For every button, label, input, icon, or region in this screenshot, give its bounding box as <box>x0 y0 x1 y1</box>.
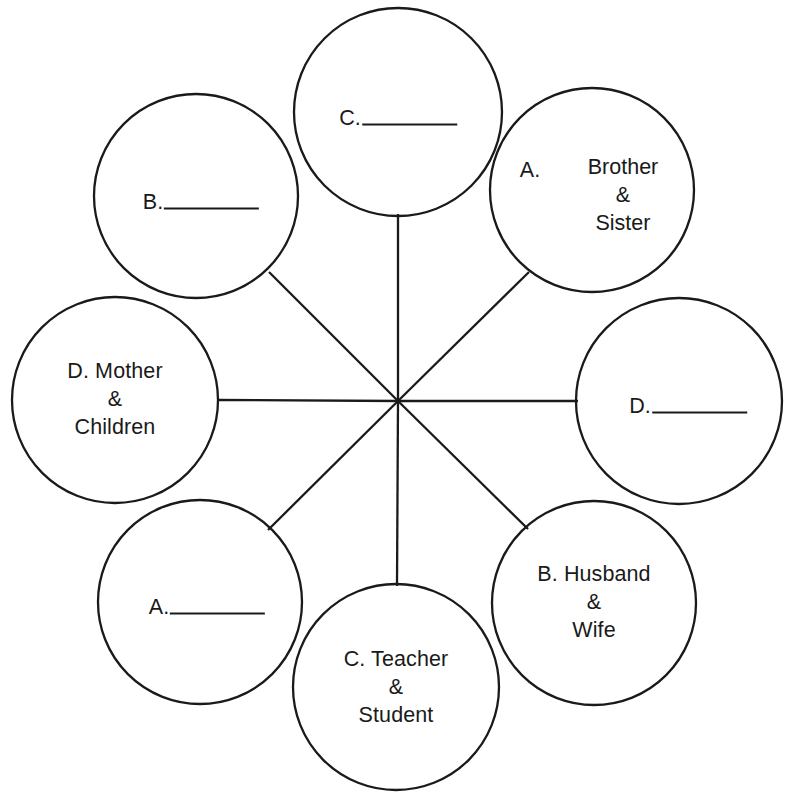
node-letter-bottom-left: A. <box>149 595 169 620</box>
spoke-bottom-right <box>398 401 528 529</box>
node-label-right: D. <box>629 394 747 419</box>
node-label-top-left: B. <box>143 190 259 215</box>
radial-worksheet-diagram: C. A. Brother & Sister D. B. Husband & W… <box>0 0 797 804</box>
node-circle-bottom-right <box>492 501 696 705</box>
node-letter-top-right: A. <box>520 158 540 183</box>
answer-blank-line-top-left[interactable] <box>164 208 259 210</box>
spoke-left <box>218 400 398 401</box>
node-circle-left <box>12 297 218 503</box>
node-letter-top: C. <box>339 106 361 131</box>
spoke-top-right <box>398 272 529 401</box>
node-label-top-right: Brother & Sister <box>588 154 659 238</box>
node-label-top: C. <box>339 106 457 131</box>
spoke-top-left <box>269 272 398 401</box>
node-letter-right: D. <box>629 394 651 419</box>
spoke-bottom <box>397 401 398 586</box>
answer-blank-line-right[interactable] <box>652 412 747 414</box>
node-label-bottom-left: A. <box>149 595 265 620</box>
answer-blank-line-bottom-left[interactable] <box>170 613 265 615</box>
node-circle-bottom <box>293 584 499 790</box>
node-letter-top-left: B. <box>143 190 163 215</box>
spoke-bottom-left <box>268 401 398 530</box>
node-answer-top-right: Brother & Sister <box>588 154 659 238</box>
answer-blank-line-top[interactable] <box>362 124 457 126</box>
